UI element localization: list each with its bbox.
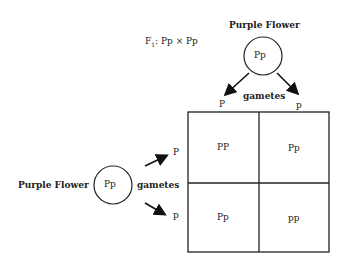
top-parent-label: Purple Flower: [229, 20, 300, 30]
top-arrow-right: [277, 73, 297, 93]
left-gamete-1: P: [173, 147, 179, 157]
punnett-cell-2-2: pp: [288, 213, 300, 223]
top-gamete-1: P: [219, 99, 225, 109]
punnett-cell-2-1: Pp: [217, 212, 229, 222]
left-arrow-top: [145, 156, 166, 166]
punnett-cell-1-2: Pp: [288, 143, 300, 153]
cross-label: F1: Pp × Pp: [145, 36, 198, 48]
left-parent-label: Purple Flower: [18, 180, 89, 190]
top-gamete-2: p: [296, 100, 302, 110]
top-gametes-label: gametes: [243, 91, 285, 101]
left-parent-genotype: Pp: [104, 179, 116, 189]
punnett-cell-1-1: PP: [217, 142, 229, 152]
left-gamete-2: p: [173, 210, 179, 220]
left-gametes-label: gametes: [137, 180, 179, 190]
left-arrow-bottom: [145, 203, 164, 214]
top-parent-genotype: Pp: [254, 50, 266, 60]
